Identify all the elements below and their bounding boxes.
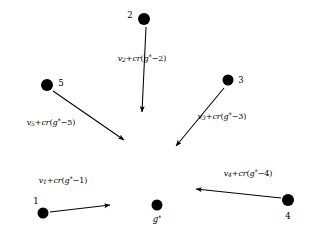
- edge-5-fn: cr: [41, 118, 49, 127]
- node-2[interactable]: [138, 13, 150, 25]
- node-4-label: 4: [285, 211, 290, 221]
- center-node-label: g*: [153, 214, 162, 224]
- center-node-g-star[interactable]: [152, 200, 163, 211]
- edge-line-1: [50, 205, 110, 212]
- edge-5-num: 5: [67, 118, 72, 127]
- center-label-sup: *: [158, 214, 161, 222]
- edge-1-num: 1: [79, 176, 84, 185]
- edge-label-1: v1+cr(g*−1): [39, 175, 88, 186]
- edge-2-num: 2: [158, 54, 163, 63]
- edge-3-sub: 3: [202, 114, 206, 121]
- node-1-label: 1: [33, 196, 38, 206]
- edge-4-sub: 4: [228, 171, 232, 178]
- node-3[interactable]: [223, 75, 234, 86]
- node-3-label: 3: [238, 75, 243, 85]
- edge-5-sup: *: [58, 117, 61, 125]
- edge-3-fn: cr: [212, 112, 220, 121]
- edge-label-2: v2+cr(g*−2): [118, 53, 167, 64]
- edge-label-4: v4+cr(g*−4): [224, 168, 273, 179]
- edge-2-sup: *: [149, 53, 152, 61]
- edge-label-3: v3+cr(g*−3): [198, 111, 247, 122]
- diagram-canvas: 1 2 3 4 5 g* v1+cr(g*−1) v2+cr(g*−2) v3+…: [0, 0, 312, 238]
- edge-4-sup: *: [255, 168, 258, 176]
- node-2-label: 2: [127, 10, 132, 20]
- edge-2-sub: 2: [122, 56, 126, 63]
- edge-line-2: [142, 27, 146, 112]
- edge-4-fn: cr: [238, 169, 246, 178]
- edge-1-fn: cr: [53, 176, 61, 185]
- node-5[interactable]: [41, 79, 53, 91]
- edge-4-num: 4: [264, 169, 269, 178]
- edge-label-5: v5+cr(g*−5): [27, 117, 76, 128]
- edge-1-sub: 1: [43, 178, 47, 185]
- edge-3-sup: *: [229, 111, 232, 119]
- node-5-label: 5: [58, 78, 63, 88]
- edge-5-sub: 5: [31, 120, 35, 127]
- edge-line-4: [196, 189, 281, 198]
- edge-3-num: 3: [238, 112, 243, 121]
- edge-line-5: [53, 91, 124, 140]
- edge-2-fn: cr: [132, 54, 140, 63]
- node-1[interactable]: [38, 208, 49, 219]
- edge-1-sup: *: [70, 175, 73, 183]
- node-4[interactable]: [282, 194, 294, 206]
